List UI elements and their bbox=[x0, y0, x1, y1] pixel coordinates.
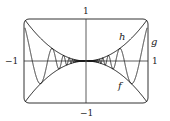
y-tick-bottom: −1 bbox=[80, 108, 93, 118]
curve-g-left bbox=[25, 28, 85, 84]
label-f: f bbox=[117, 80, 124, 91]
chart-plot: 1 −1 −1 1 h g f bbox=[0, 0, 170, 121]
label-g: g bbox=[151, 36, 157, 47]
curve-g-right bbox=[87, 28, 147, 84]
x-tick-right: 1 bbox=[152, 56, 158, 66]
x-tick-left: −1 bbox=[5, 56, 18, 66]
y-tick-top: 1 bbox=[83, 6, 89, 16]
label-h: h bbox=[119, 31, 125, 42]
